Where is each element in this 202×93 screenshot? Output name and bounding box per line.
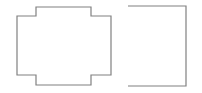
shapes-svg (0, 0, 202, 93)
canvas-background (0, 0, 202, 93)
drawing-canvas (0, 0, 202, 93)
